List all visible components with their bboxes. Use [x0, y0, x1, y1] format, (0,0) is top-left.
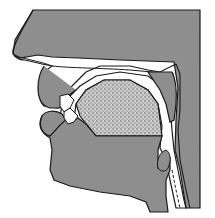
diagram-canvas: [0, 0, 215, 218]
vocal-tract-diagram: [0, 0, 215, 218]
epiglottis: [157, 150, 170, 171]
